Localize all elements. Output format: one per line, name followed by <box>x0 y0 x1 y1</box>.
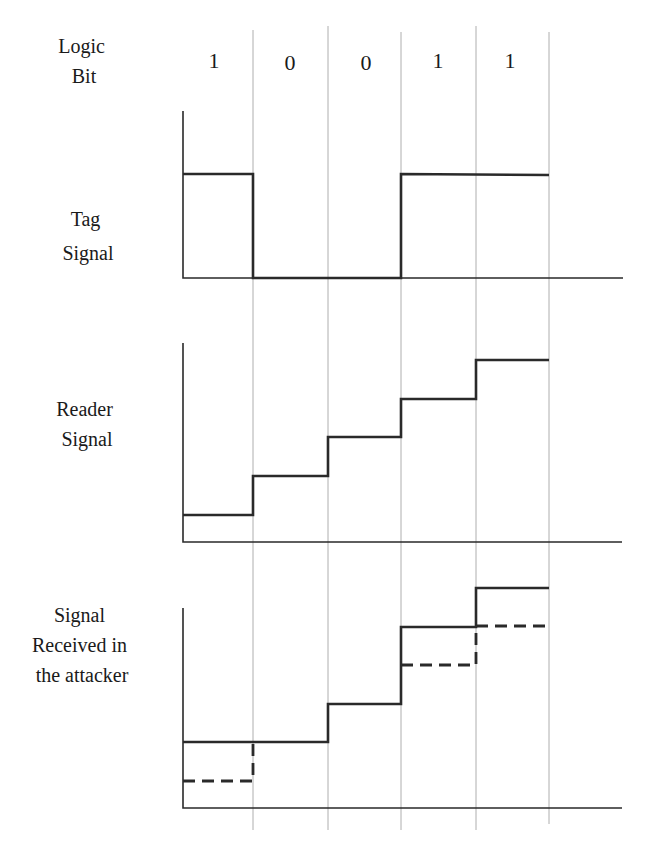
tag-signal-plot <box>183 111 623 278</box>
tag-signal-label: Tag Signal <box>62 208 114 265</box>
attacker-signal-label: Signal Received in the attacker <box>32 604 132 686</box>
logic-bits: 1 0 0 1 1 <box>209 48 516 75</box>
logic-bit-label: Logic Bit <box>58 35 110 87</box>
attacker-signal-plot <box>183 588 622 808</box>
signal-timing-diagram: Logic Bit Tag Signal Reader Signal Signa… <box>0 0 653 865</box>
reader-signal-label: Reader Signal <box>56 398 118 451</box>
tag-signal-axes <box>183 111 623 278</box>
bit-value-4: 1 <box>433 48 444 73</box>
reader-signal-waveform <box>183 360 549 515</box>
attacker-signal-axes <box>183 608 622 808</box>
reader-signal-axes <box>183 343 622 542</box>
attacker-dashed-waveform-end <box>401 626 549 665</box>
tag-signal-waveform <box>183 174 549 278</box>
reader-signal-plot <box>183 343 622 542</box>
attacker-solid-waveform <box>183 588 549 742</box>
bit-value-2: 0 <box>285 50 296 75</box>
bit-value-1: 1 <box>209 48 220 73</box>
bit-value-3: 0 <box>361 50 372 75</box>
bit-value-5: 1 <box>505 48 516 73</box>
attacker-dashed-waveform-start <box>183 742 253 781</box>
